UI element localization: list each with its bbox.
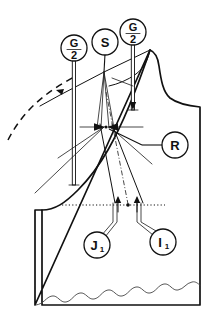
radiate-line-left-upper bbox=[58, 127, 104, 158]
callout-g-half-right-denominator: 2 bbox=[130, 33, 136, 45]
dart-line-a bbox=[97, 72, 104, 128]
callout-i1-label: I bbox=[158, 235, 162, 250]
leader-s bbox=[104, 54, 105, 72]
callout-i1[interactable]: I 1 bbox=[150, 229, 176, 255]
hem-wave-group bbox=[36, 282, 200, 305]
leader-r-elbow bbox=[109, 129, 142, 145]
pattern-drawing: G 2 S G 2 R J 1 I bbox=[0, 0, 216, 325]
callout-i1-subscript: 1 bbox=[165, 242, 170, 251]
callout-r-label: R bbox=[170, 138, 180, 153]
radiate-line-left-lower bbox=[35, 127, 104, 193]
callout-r[interactable]: R bbox=[162, 132, 188, 158]
dimension-centre-point bbox=[105, 126, 108, 129]
garment-outline-group bbox=[35, 50, 200, 305]
leader-j1-line-outer bbox=[101, 203, 113, 236]
callout-j1-label: J bbox=[90, 238, 97, 253]
guide-arrowhead-left-icon bbox=[115, 196, 121, 203]
garment-body-outline bbox=[35, 50, 200, 305]
dart-line-d bbox=[104, 72, 114, 128]
callout-g-half-left[interactable]: G 2 bbox=[61, 35, 87, 61]
callout-j1[interactable]: J 1 bbox=[84, 232, 110, 258]
pattern-diagram-root: G 2 S G 2 R J 1 I bbox=[0, 0, 216, 325]
callout-g-half-right[interactable]: G 2 bbox=[120, 19, 146, 45]
leader-j1-line-inner bbox=[105, 203, 117, 237]
callout-g-half-right-numerator: G bbox=[129, 21, 138, 33]
hem-zigzag-line bbox=[36, 282, 200, 305]
callout-g-half-left-denominator: 2 bbox=[71, 49, 77, 61]
callout-s[interactable]: S bbox=[92, 29, 118, 55]
lower-leader-group bbox=[101, 203, 156, 237]
callout-g-half-left-numerator: G bbox=[70, 37, 79, 49]
dart-leg-left bbox=[100, 124, 115, 203]
guide-arrowhead-right-icon bbox=[134, 196, 140, 203]
rail-g-half-left bbox=[72, 60, 75, 185]
leader-i1-line-outer bbox=[137, 203, 153, 235]
dart-line-c bbox=[104, 72, 109, 128]
callout-j1-subscript: 1 bbox=[100, 245, 105, 254]
bust-level-centre-point bbox=[126, 203, 130, 207]
callout-i1-circle[interactable] bbox=[150, 229, 176, 255]
rail-right-arrowhead-icon bbox=[130, 102, 137, 110]
dart-line-b bbox=[101, 72, 104, 128]
callout-s-label: S bbox=[101, 35, 110, 50]
swing-arc-group bbox=[8, 76, 76, 140]
dart-leg-right bbox=[112, 124, 143, 203]
dashed-swing-arc bbox=[8, 76, 76, 140]
rail-g-half-right bbox=[131, 44, 134, 110]
